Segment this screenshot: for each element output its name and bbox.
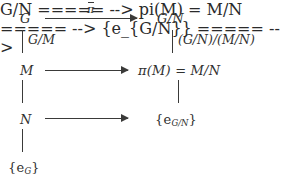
node-g: G — [20, 12, 31, 25]
arrow-bottom-head — [121, 114, 129, 122]
edge-label-g-mod-m: G/M — [28, 34, 55, 47]
edge-mn-to-identity — [178, 80, 179, 103]
edge-m-to-n — [22, 80, 23, 103]
arrow-middle — [45, 66, 128, 76]
arrow-top-shaft — [45, 18, 137, 19]
node-g-mod-n: G/N — [157, 12, 184, 25]
node-identity-g-mod-n: {eG/N} — [155, 113, 197, 128]
arrow-top-head — [130, 14, 138, 22]
identity-gn-close: } — [188, 112, 196, 127]
node-identity-g: {eG} — [8, 161, 40, 176]
identity-gn-subscript: G/N — [171, 118, 188, 128]
node-pi-of-m: π(M) = M/N — [138, 64, 220, 77]
identity-g-close: } — [31, 160, 39, 175]
commutative-diagram: G/N ===== --> G π G/N G/M (G/N)/(M/N) pi… — [0, 0, 281, 181]
arrow-bottom — [45, 114, 128, 124]
edge-g-to-m — [22, 30, 23, 53]
arrow-middle-shaft — [45, 70, 128, 71]
arrow-bottom-shaft — [45, 118, 128, 119]
edge-n-to-identity — [22, 129, 23, 152]
node-n: N — [20, 113, 32, 126]
identity-gn-open: {e — [155, 112, 171, 127]
node-m: M — [20, 64, 34, 77]
edge-gn-to-mn — [172, 30, 173, 53]
arrow-middle-head — [121, 66, 129, 74]
edge-label-gn-mod-mn: (G/N)/(M/N) — [178, 34, 255, 47]
identity-g-open: {e — [8, 160, 24, 175]
pi-bar-symbol: π — [87, 3, 94, 15]
arrow-top-label: π — [87, 3, 94, 15]
